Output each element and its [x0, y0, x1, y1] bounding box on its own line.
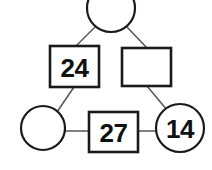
node-bottom-right-circle[interactable]: 14 [156, 104, 204, 152]
diagram-canvas: 24 27 14 [0, 0, 212, 170]
node-left-square[interactable]: 24 [50, 46, 99, 87]
edge-left-square-to-bottom-left-circle [57, 87, 74, 112]
edge-right-square-to-bottom-right-circle [147, 86, 167, 110]
bottom-square-label: 27 [100, 118, 128, 148]
node-bottom-square[interactable]: 27 [89, 112, 138, 152]
node-right-square[interactable] [122, 48, 171, 86]
bottom-left-circle-shape[interactable] [21, 106, 65, 150]
node-bottom-left-circle[interactable] [21, 106, 65, 150]
bottom-right-circle-label: 14 [166, 114, 195, 144]
node-link-diagram: 24 27 14 [0, 0, 212, 170]
left-square-label: 24 [61, 53, 90, 83]
edge-top-circle-to-right-square [126, 26, 147, 48]
edge-top-circle-to-left-square [76, 26, 96, 46]
right-square-shape[interactable] [122, 48, 171, 86]
